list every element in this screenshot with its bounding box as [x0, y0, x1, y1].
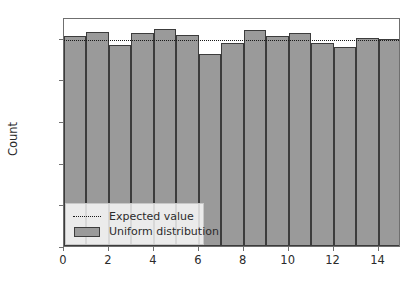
- x-tick-mark: [333, 247, 334, 251]
- y-axis-label: Count: [6, 122, 20, 156]
- bar: [244, 30, 266, 246]
- bar: [289, 33, 311, 246]
- x-axis: 02468101214: [0, 247, 419, 282]
- expected-value-line: [64, 40, 399, 41]
- filled-patch-icon: [72, 226, 102, 238]
- bar: [221, 43, 243, 246]
- bar: [356, 38, 378, 246]
- dotted-line-icon: [72, 211, 102, 223]
- bar: [334, 47, 356, 246]
- bar: [311, 43, 333, 246]
- x-tick-label: 2: [104, 253, 111, 267]
- legend[interactable]: Expected value Uniform distribution: [65, 203, 204, 245]
- legend-item-uniform-distribution[interactable]: Uniform distribution: [72, 224, 197, 239]
- legend-label: Uniform distribution: [109, 225, 219, 238]
- x-tick-mark: [63, 247, 64, 251]
- x-tick-mark: [153, 247, 154, 251]
- plot-area: Expected value Uniform distribution: [63, 18, 400, 247]
- bar: [266, 36, 288, 246]
- bar: [379, 39, 400, 246]
- legend-label: Expected value: [109, 210, 194, 223]
- y-axis: Count 0100200300400500: [0, 0, 63, 282]
- x-tick-label: 4: [149, 253, 156, 267]
- x-tick-label: 10: [280, 253, 295, 267]
- x-tick-label: 14: [370, 253, 385, 267]
- x-tick-mark: [198, 247, 199, 251]
- x-tick-label: 6: [194, 253, 201, 267]
- histogram-figure: Count 0100200300400500 Expected value Un…: [0, 0, 419, 282]
- x-tick-mark: [108, 247, 109, 251]
- legend-item-expected-value[interactable]: Expected value: [72, 209, 197, 224]
- x-tick-label: 12: [325, 253, 340, 267]
- x-tick-label: 0: [59, 253, 66, 267]
- x-tick-label: 8: [239, 253, 246, 267]
- x-tick-mark: [288, 247, 289, 251]
- x-tick-mark: [243, 247, 244, 251]
- x-tick-mark: [378, 247, 379, 251]
